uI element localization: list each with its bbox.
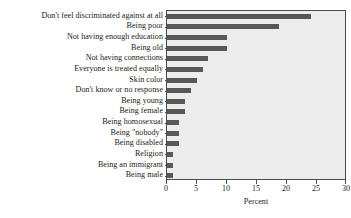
category-label: Being homosexual (0, 117, 163, 126)
category-label: Being old (0, 43, 163, 52)
category-label: Being poor (0, 21, 163, 30)
x-tick (196, 180, 197, 184)
x-tick-label: 10 (214, 184, 238, 194)
x-tick-label: 5 (184, 184, 208, 194)
bar (167, 141, 179, 146)
category-label: Being young (0, 96, 163, 105)
bar (167, 99, 185, 104)
bar (167, 67, 203, 72)
x-tick-label: 20 (274, 184, 298, 194)
bar (167, 24, 279, 29)
bar (167, 46, 227, 51)
x-axis-tick-labels: 051015202530 (0, 184, 351, 195)
bar (167, 78, 197, 83)
bar (167, 152, 173, 157)
x-tick (316, 180, 317, 184)
category-label: Don't know or no response (0, 85, 163, 94)
category-label: Being "nobody" (0, 128, 163, 137)
category-label: Being an immigrant (0, 160, 163, 169)
bar (167, 173, 173, 178)
x-tick (286, 180, 287, 184)
bar (167, 56, 208, 61)
bars-layer (167, 11, 345, 179)
bar (167, 35, 227, 40)
x-tick-label: 30 (334, 184, 351, 194)
x-tick (345, 180, 346, 184)
bar (167, 14, 311, 19)
bar (167, 88, 191, 93)
category-label: Not having connections (0, 53, 163, 62)
category-label: Being male (0, 170, 163, 179)
category-label: Being disabled (0, 138, 163, 147)
category-label: Being female (0, 106, 163, 115)
category-label: Everyone is treated equally (0, 64, 163, 73)
plot-area (166, 10, 346, 180)
horizontal-bar-chart: Don't feel discriminated against at allB… (0, 0, 351, 218)
bar (167, 109, 185, 114)
x-tick (226, 180, 227, 184)
x-tick (166, 180, 167, 184)
x-tick (256, 180, 257, 184)
category-axis-labels: Don't feel discriminated against at allB… (0, 10, 163, 180)
category-label: Skin color (0, 75, 163, 84)
x-axis-title: Percent (166, 197, 346, 207)
bar (167, 163, 173, 168)
category-label: Not having enough education (0, 32, 163, 41)
x-tick-label: 25 (304, 184, 328, 194)
category-label: Religion (0, 149, 163, 158)
x-tick-label: 0 (154, 184, 178, 194)
bar (167, 131, 179, 136)
bar (167, 120, 179, 125)
x-tick-label: 15 (244, 184, 268, 194)
category-label: Don't feel discriminated against at all (0, 11, 163, 20)
